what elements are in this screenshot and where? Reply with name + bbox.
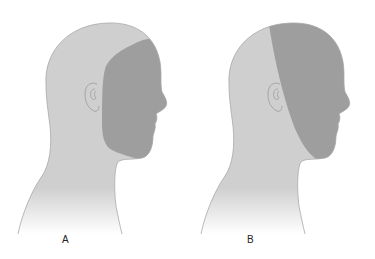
head-a	[18, 23, 190, 234]
head-profile-figure	[0, 0, 375, 259]
head-b	[201, 10, 370, 234]
panel-label-a: A	[62, 234, 69, 245]
panel-label-b: B	[247, 234, 254, 245]
